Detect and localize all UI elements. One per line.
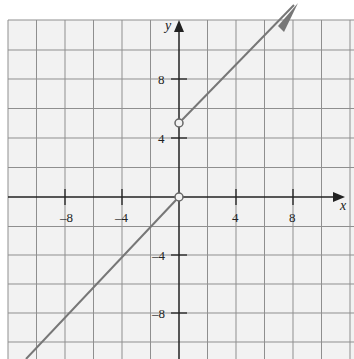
y-tick-label: 8 (158, 72, 165, 87)
x-axis-label: x (339, 198, 347, 213)
graph-canvas: –8 –4 4 8 8 4 –4 –8 y x (0, 0, 354, 359)
x-tick-label: –4 (114, 210, 129, 225)
y-axis-label: y (163, 18, 172, 33)
open-circle-origin (175, 193, 183, 201)
x-tick-label: 4 (232, 210, 239, 225)
open-circle-0-5 (175, 119, 183, 127)
y-tick-label: 4 (158, 131, 165, 146)
y-tick-label: –4 (151, 248, 166, 263)
grid-background (8, 20, 354, 359)
x-tick-label: 8 (289, 210, 296, 225)
y-tick-label: –8 (151, 306, 165, 321)
x-tick-label: –8 (59, 210, 73, 225)
